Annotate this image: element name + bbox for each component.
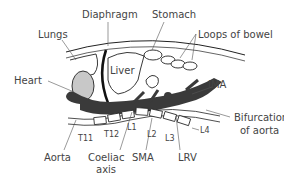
label-loops-of-bowel: Loops of bowel — [198, 29, 273, 40]
label-l2: L2 — [147, 130, 157, 139]
bowel-loops — [144, 50, 197, 88]
label-bifurcation-2: of aorta — [240, 125, 279, 136]
label-bifurcation-1: Bifurcation — [234, 112, 284, 123]
label-t11: T11 — [77, 134, 93, 143]
label-coeliac-1: Coeliac — [88, 152, 124, 163]
label-lungs: Lungs — [38, 29, 68, 40]
label-stomach: Stomach — [152, 9, 196, 20]
renal-vein — [164, 92, 172, 100]
label-sma: SMA — [132, 152, 154, 163]
label-t12: T12 — [103, 130, 119, 139]
label-lrv: LRV — [178, 152, 197, 163]
label-ima: IMA — [208, 79, 227, 90]
anatomy-diagram: Lungs Diaphragm Stomach Loops of bowel H… — [0, 0, 284, 184]
label-l3: L3 — [165, 134, 175, 143]
label-aorta: Aorta — [44, 152, 71, 163]
label-heart: Heart — [14, 75, 42, 86]
label-liver: Liver — [110, 65, 135, 76]
label-diaphragm: Diaphragm — [82, 9, 138, 20]
label-coeliac-2: axis — [96, 164, 116, 175]
label-l4: L4 — [200, 126, 210, 135]
label-l1: L1 — [127, 123, 137, 132]
